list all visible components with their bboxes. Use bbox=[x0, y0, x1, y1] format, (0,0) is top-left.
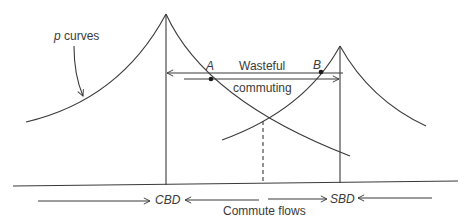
ground-axis bbox=[13, 181, 458, 186]
sbd-right-p-curve bbox=[340, 46, 426, 126]
p-variable: p bbox=[54, 29, 61, 43]
p-curves-pointer bbox=[74, 46, 83, 96]
point-b-label: B bbox=[313, 59, 321, 71]
commuting-label: commuting bbox=[233, 82, 292, 94]
commute-flows-caption: Commute flows bbox=[223, 205, 306, 217]
cbd-label: CBD bbox=[155, 194, 180, 206]
curves-text: curves bbox=[61, 29, 100, 43]
point-a-label: A bbox=[206, 60, 214, 72]
wasteful-label: Wasteful bbox=[239, 60, 285, 72]
p-curves-label: p curves bbox=[54, 30, 99, 42]
commute-diagram: p curves A B Wasteful commuting CBD SBD … bbox=[0, 0, 474, 219]
point-a-marker bbox=[209, 77, 214, 82]
sbd-label: SBD bbox=[330, 193, 355, 205]
